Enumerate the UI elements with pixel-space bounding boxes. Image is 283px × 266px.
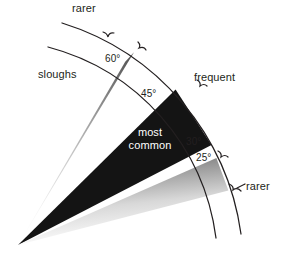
label-most-common-line2: common [129,139,172,151]
label-sloughs: sloughs [38,68,77,80]
angle-tick-60: 60° [105,53,120,65]
angle-tick-25: 25° [196,152,211,164]
brace-sixty-joint [138,42,146,50]
brace-frequent-lower-joint [218,151,228,157]
label-most-common-line1: most [138,126,162,138]
figure-canvas: rarer sloughs frequent rarer 60° 45° 30°… [0,0,283,266]
leader-rarer-right [237,184,245,188]
angle-tick-45: 45° [141,88,156,100]
label-rarer-right: rarer [246,180,270,192]
angle-tick-30: 30° [186,136,201,148]
brace-rarer-top [103,32,114,37]
label-most-common: most common [118,126,182,151]
wedge-most-common [18,89,212,245]
label-rarer-top: rarer [72,2,96,14]
label-frequent: frequent [194,71,235,83]
